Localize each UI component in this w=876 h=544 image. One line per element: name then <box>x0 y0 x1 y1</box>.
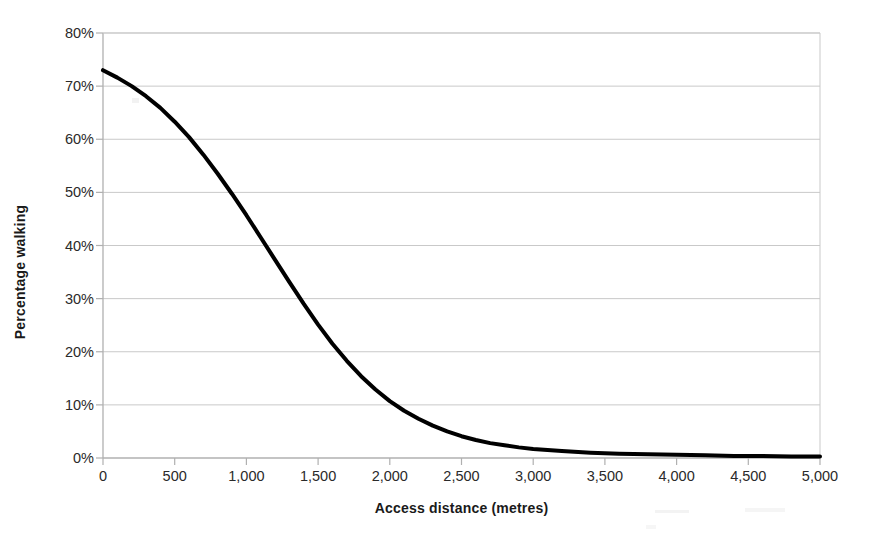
gridlines <box>103 33 820 405</box>
y-axis-ticks <box>96 33 103 458</box>
series-line-percentage-walking <box>103 70 820 456</box>
chart-figure: Percentage walking 0%10%20%30%40%50%60%7… <box>0 0 876 544</box>
plot-area <box>0 0 876 544</box>
x-axis-ticks <box>103 458 820 465</box>
x-axis-title: Access distance (metres) <box>103 500 820 516</box>
